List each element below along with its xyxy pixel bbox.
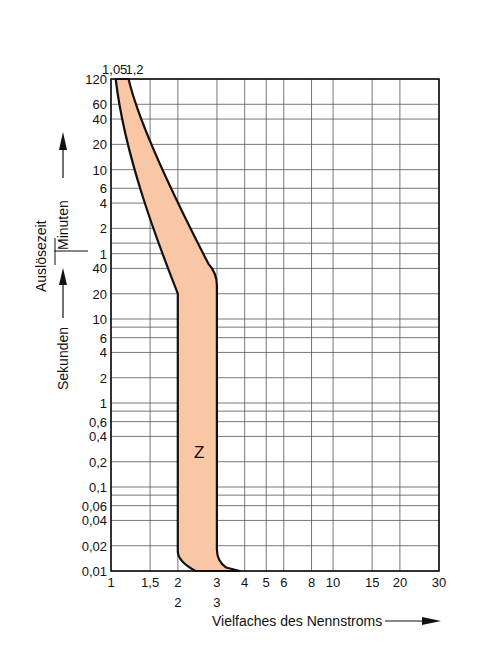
tripping-characteristic-chart: Z 12060402010642140201064210,60,40,20,10…: [0, 0, 480, 669]
x-tick-label: 20: [393, 575, 407, 590]
x-tick-label: 1: [107, 575, 114, 590]
y-axis-label-group: Auslösezeit: [33, 220, 49, 292]
y-tick-label-minutes: 6: [100, 181, 107, 196]
x-axis-label: Vielfaches des Nennstroms: [212, 613, 382, 629]
seconds-arrow-icon: [59, 268, 67, 318]
y-tick-label-seconds: 0,04: [82, 513, 107, 528]
x-tick-label: 4: [241, 575, 248, 590]
y-tick-label-seconds: 0,06: [82, 499, 107, 514]
y-tick-label-seconds: 40: [93, 261, 107, 276]
x-axis-ticks: 11,52345681015203023: [107, 575, 446, 610]
x-tick-label: 6: [280, 575, 287, 590]
y-axis-label: Auslösezeit: [33, 220, 49, 292]
x-tick-label: 1,5: [141, 575, 159, 590]
x-axis-arrow-icon: [385, 617, 441, 625]
y-tick-label-minutes: 2: [100, 221, 107, 236]
top-axis-ticks: 1,051,2: [102, 62, 144, 77]
x-tick-label: 15: [365, 575, 379, 590]
y-tick-label-seconds: 6: [100, 331, 107, 346]
top-tick-label: 1,05: [102, 62, 127, 77]
y-tick-label-seconds: 0,1: [89, 480, 107, 495]
y-tick-label-seconds: 0,4: [89, 429, 107, 444]
y-axis-seconds-label: Sekunden: [55, 327, 71, 390]
x-tick-label: 8: [308, 575, 315, 590]
y-tick-label-seconds: 4: [100, 345, 107, 360]
x-tick-label: 3: [213, 575, 220, 590]
y-tick-label-seconds: 0,2: [89, 455, 107, 470]
grid-lines: [111, 79, 439, 571]
y-tick-label-minutes: 1: [100, 247, 107, 262]
x-tick-label-secondary: 3: [213, 595, 220, 610]
y-tick-label-seconds: 2: [100, 371, 107, 386]
y-tick-label-seconds: 1: [100, 396, 107, 411]
y-tick-label-minutes: 20: [93, 137, 107, 152]
y-tick-label-minutes: 4: [100, 196, 107, 211]
y-tick-label-seconds: 0,02: [82, 539, 107, 554]
y-axis-minutes-label: Minuten: [55, 200, 71, 250]
y-tick-label-seconds: 0,6: [89, 415, 107, 430]
y-tick-label-minutes: 10: [93, 163, 107, 178]
y-tick-label-seconds: 0,01: [82, 564, 107, 579]
series-label-z: Z: [194, 443, 204, 462]
y-axis-ticks: 12060402010642140201064210,60,40,20,10,0…: [82, 72, 107, 579]
x-tick-label: 2: [174, 575, 181, 590]
plot-frame: [111, 79, 439, 571]
x-tick-label: 30: [432, 575, 446, 590]
x-tick-label: 10: [326, 575, 340, 590]
x-tick-label-secondary: 2: [174, 595, 181, 610]
y-tick-label-seconds: 20: [93, 287, 107, 302]
x-tick-label: 5: [263, 575, 270, 590]
y-tick-label-seconds: 10: [93, 312, 107, 327]
top-tick-label: 1,2: [126, 62, 144, 77]
y-tick-label-minutes: 60: [93, 97, 107, 112]
y-tick-label-minutes: 40: [93, 112, 107, 127]
minutes-arrow-icon: [59, 132, 67, 178]
